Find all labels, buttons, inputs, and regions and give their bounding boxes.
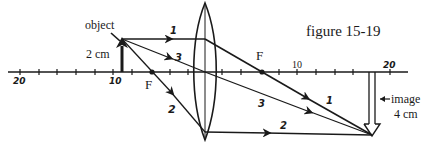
image-label: image: [391, 92, 420, 106]
image-arrow: [364, 72, 380, 136]
focal-label-right: F: [256, 48, 263, 63]
ray-3: 3 3: [122, 39, 372, 135]
object-height-label: 2 cm: [86, 47, 110, 61]
lens-ray-diagram: 20 10 10 20 F F object 2 cm 1 1 2: [0, 0, 428, 146]
ray-1-label-incident: 1: [170, 25, 177, 36]
focal-label-left: F: [145, 77, 152, 92]
ray-1-label-refracted: 1: [326, 95, 333, 106]
tick-label-left-10: 10: [109, 76, 122, 86]
ray-3-label-incident: 3: [175, 52, 182, 63]
figure-caption: figure 15-19: [306, 23, 381, 39]
object-label-pointer: [111, 33, 120, 41]
ray-2-label-incident: 2: [168, 103, 176, 116]
tick-label-right-10: 10: [292, 59, 302, 70]
ray-2-label-refracted: 2: [280, 120, 287, 131]
tick-label-left-20: 20: [13, 76, 26, 86]
ray-3-label-refracted: 3: [258, 98, 265, 109]
tick-label-right-20: 20: [383, 60, 396, 70]
object-label: object: [85, 18, 115, 32]
object-arrow: [116, 37, 128, 72]
image-height-label: 4 cm: [394, 107, 418, 121]
image-label-pointer-head: [380, 96, 385, 102]
